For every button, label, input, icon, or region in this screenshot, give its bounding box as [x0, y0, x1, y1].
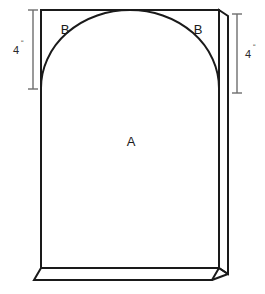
dimension-left: 4 ʺ	[13, 10, 38, 89]
dimension-right: 4 ʺ	[232, 14, 256, 93]
dimension-left-value: 4	[13, 44, 19, 56]
panel-right-face	[219, 10, 228, 274]
region-label-a: A	[127, 134, 136, 149]
dimension-right-value: 4	[245, 48, 251, 60]
region-label-b-right: B	[194, 22, 203, 37]
panel-bottom-face	[34, 268, 219, 280]
dimension-right-unit: ʺ	[253, 44, 256, 51]
region-label-b-left: B	[61, 22, 70, 37]
diagram-root: A B B 4 ʺ 4 ʺ	[0, 0, 265, 294]
dimension-left-unit: ʺ	[21, 40, 24, 47]
arched-panel-diagram: A B B 4 ʺ 4 ʺ	[0, 0, 265, 294]
